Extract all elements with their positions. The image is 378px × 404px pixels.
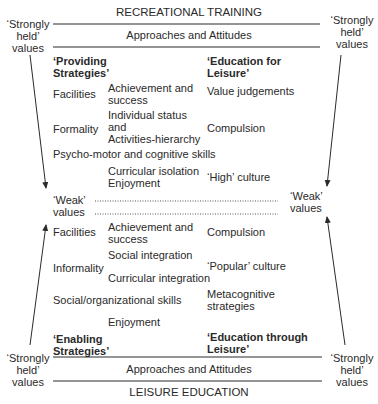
upper-facilities: Facilities xyxy=(53,88,96,100)
upper-individual-status: Individual status and Activities-hierarc… xyxy=(108,109,200,145)
band-label-top: Approaches and Attitudes xyxy=(0,29,378,41)
lower-popular-culture: ‘Popular’ culture xyxy=(207,260,286,272)
lower-social-integration: Social integration xyxy=(108,249,192,261)
lower-social-organizational-skills: Social/organizational skills xyxy=(53,294,181,306)
upper-value-judgements: Value judgements xyxy=(207,85,294,97)
band-label-bottom: Approaches and Attitudes xyxy=(0,363,378,375)
heading-education-for-leisure: ‘Education for Leisure’ xyxy=(207,55,281,79)
strongly-held-values-top-left: ‘Strongly held’ values xyxy=(4,18,52,54)
weak-values-right: ‘Weak’ values xyxy=(290,190,323,214)
lower-metacognitive-strategies: Metacognitive strategies xyxy=(207,288,275,312)
arrow-right-down xyxy=(327,55,341,186)
heading-providing-strategies: ‘Providing Strategies’ xyxy=(53,55,109,79)
arrow-left-up xyxy=(30,225,46,345)
upper-curricular-isolation: Curricular isolation Enjoyment xyxy=(108,165,199,189)
top-title: RECREATIONAL TRAINING xyxy=(0,6,378,18)
strongly-held-values-bottom-right: ‘Strongly held’ values xyxy=(326,352,378,388)
upper-compulsion: Compulsion xyxy=(207,122,265,134)
arrow-right-up xyxy=(327,217,345,345)
heading-education-through-leisure: ‘Education through Leisure’ xyxy=(207,331,308,355)
lower-curricular-integration: Curricular integration xyxy=(108,272,210,284)
upper-high-culture: ‘High’ culture xyxy=(207,171,270,183)
heading-enabling-strategies: ‘Enabling Strategies’ xyxy=(53,333,109,357)
lower-enjoyment: Enjoyment xyxy=(108,316,160,328)
lower-achievement-and-success: Achievement and success xyxy=(108,221,193,245)
weak-values-left: ‘Weak’ values xyxy=(53,194,86,218)
strongly-held-values-top-right: ‘Strongly held’ values xyxy=(326,14,378,50)
arrow-left-down xyxy=(30,55,46,188)
strongly-held-values-bottom-left: ‘Strongly held’ values xyxy=(4,352,52,388)
lower-facilities: Facilities xyxy=(53,226,96,238)
upper-formality: Formality xyxy=(53,123,98,135)
lower-informality: Informality xyxy=(53,262,104,274)
upper-achievement-and-success: Achievement and success xyxy=(108,82,193,106)
upper-psycho-motor-skills: Psycho-motor and cognitive skills xyxy=(53,148,216,160)
bottom-title: LEISURE EDUCATION xyxy=(0,386,378,398)
lower-compulsion: Compulsion xyxy=(207,226,265,238)
